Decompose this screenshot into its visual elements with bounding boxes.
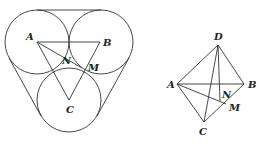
label-n: N <box>61 55 72 66</box>
segment-dn <box>218 45 220 101</box>
label-a: A <box>166 79 175 90</box>
diagram-canvas: A B C N M D A B C N M <box>0 0 259 145</box>
label-d: D <box>213 31 223 42</box>
label-c: C <box>66 104 74 115</box>
label-n: N <box>221 89 232 100</box>
three-circles-figure: A B C N M <box>5 10 133 132</box>
right-tangent <box>97 58 129 116</box>
label-b: B <box>247 79 256 90</box>
edge-db <box>218 45 244 84</box>
left-tangent <box>9 58 41 116</box>
tetrahedron-figure: D A B C N M <box>166 31 256 137</box>
label-m: M <box>87 62 100 73</box>
label-m: M <box>228 102 241 113</box>
label-c: C <box>199 126 207 137</box>
label-b: B <box>102 37 111 48</box>
label-a: A <box>25 31 34 42</box>
